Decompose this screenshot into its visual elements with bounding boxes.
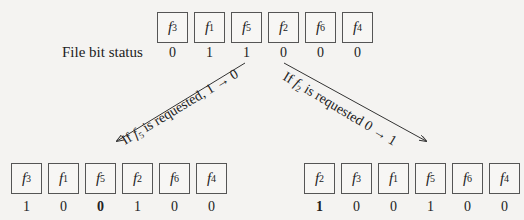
right-arrow: [284, 63, 426, 141]
right-arrow-label: If f2 is requested 0 → 1: [279, 69, 399, 150]
arrows: If f5 is requested, 1 → 0 If f2 is reque…: [0, 0, 524, 220]
left-arrow-label: If f5 is requested, 1 → 0: [119, 66, 242, 149]
